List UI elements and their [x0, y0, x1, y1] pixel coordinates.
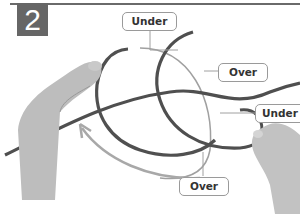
right-hand [252, 123, 300, 214]
step-number-badge: 2 [17, 3, 48, 36]
callout-under-top: Under [122, 12, 177, 31]
callout-over-bottom: Over [179, 177, 229, 196]
callout-over-right: Over [218, 63, 268, 82]
callout-under-right: Under [255, 104, 300, 123]
knot-step-illustration: 2 Under Over Under Over [0, 0, 300, 214]
